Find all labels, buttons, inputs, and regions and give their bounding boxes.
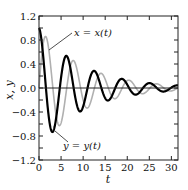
- y-tick-label: −1.2: [12, 155, 36, 166]
- annotation-y-label: y = y(t): [62, 140, 101, 151]
- damped-oscillation-chart: 051015202530−1.2−0.8−0.40.00.40.81.2 t x…: [0, 0, 188, 190]
- y-tick-label: 0.0: [20, 83, 36, 94]
- y-tick-label: −0.4: [12, 107, 36, 118]
- y-tick-label: 1.2: [20, 11, 36, 22]
- x-tick-label: 0: [36, 162, 42, 173]
- x-tick-label: 10: [77, 162, 90, 173]
- x-tick-label: 30: [165, 162, 178, 173]
- y-tick-label: 0.4: [20, 59, 36, 70]
- y-axis-label: x, y: [3, 80, 16, 100]
- series-y-line: [39, 28, 178, 132]
- annotation-x-label: x = x(t): [74, 27, 112, 38]
- annotation-leader-x: [49, 33, 72, 50]
- x-tick-label: 15: [99, 162, 112, 173]
- series-layer: [39, 28, 178, 132]
- x-axis-label: t: [106, 173, 111, 186]
- x-tick-label: 5: [58, 162, 64, 173]
- y-tick-label: 0.8: [20, 35, 36, 46]
- x-tick-label: 20: [121, 162, 134, 173]
- x-tick-label: 25: [143, 162, 156, 173]
- y-tick-label: −0.8: [12, 131, 36, 142]
